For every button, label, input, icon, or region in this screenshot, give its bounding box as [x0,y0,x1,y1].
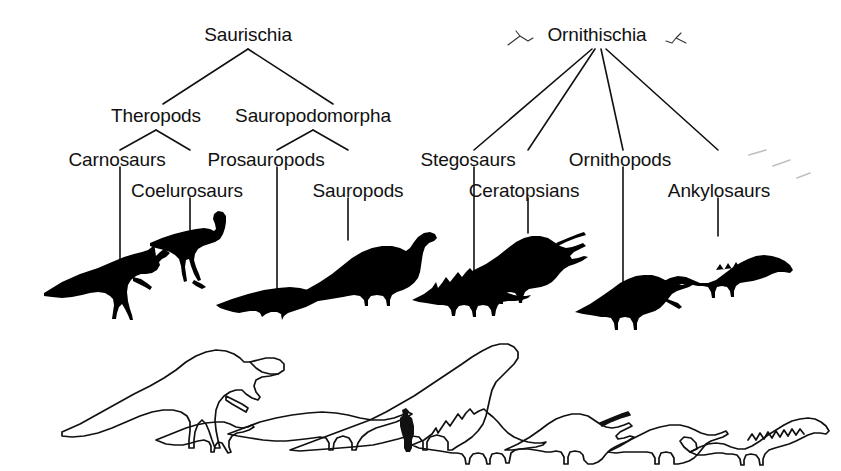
small-theropod-outline [156,422,254,453]
ceratopsian-outline [505,414,634,464]
clade-label-ornithischia[interactable]: Ornithischia [547,25,646,44]
clade-label-ceratopsians[interactable]: Ceratopsians [469,181,580,200]
ankylosaur-outline-club [680,437,697,452]
prosauropod-outline [228,412,412,450]
clade-label-ankylosaurs[interactable]: Ankylosaurs [668,181,770,200]
clade-label-theropods[interactable]: Theropods [111,106,201,125]
clade-label-stegosaurs[interactable]: Stegosaurs [420,150,515,169]
clade-label-ornithopods[interactable]: Ornithopods [569,150,671,169]
ankylosaur-outline-spikes [748,429,804,440]
scale-comparison-row [0,0,841,471]
dinosaur-phylogeny-diagram: Saurischia Ornithischia Theropods Saurop… [0,0,841,471]
tyrannosaur-jaw [250,362,278,374]
clade-label-sauropodomorpha[interactable]: Sauropodomorpha [235,106,391,125]
tyrannosaur-arm [226,396,248,412]
clade-label-prosauropods[interactable]: Prosauropods [207,150,324,169]
clade-label-saurischia[interactable]: Saurischia [204,25,292,44]
clade-label-coelurosaurs[interactable]: Coelurosaurs [131,181,243,200]
clade-label-sauropods[interactable]: Sauropods [312,181,403,200]
clade-label-carnosaurs[interactable]: Carnosaurs [68,150,165,169]
